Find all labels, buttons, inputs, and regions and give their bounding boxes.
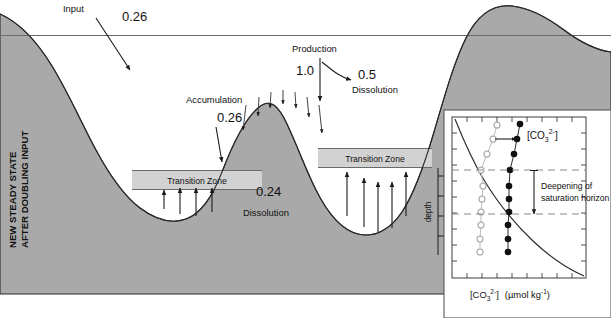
deep-dissolution-value: 0.24 — [256, 184, 281, 199]
side-caption-line-1: NEW STEADY STATE — [7, 151, 18, 248]
input-label: Input — [63, 3, 84, 14]
accumulation-label: Accumulation — [186, 94, 242, 105]
production-label: Production — [292, 43, 337, 54]
inset-panel: [CO32-] Deepening of saturation horizon … — [444, 110, 611, 318]
surface-dissolution-label: Dissolution — [352, 84, 398, 95]
production-value: 1.0 — [296, 63, 314, 78]
accumulation-value: 0.26 — [217, 110, 242, 125]
deepening-annotation-line-2: saturation horizon — [541, 193, 610, 203]
depth-axis-label: depth — [424, 201, 433, 222]
surface-dissolution-value: 0.5 — [358, 67, 376, 82]
transition-zone-right: Transition Zone — [318, 148, 432, 168]
side-caption-line-2: AFTER DOUBLING INPUT — [19, 131, 30, 248]
input-value: 0.26 — [122, 9, 147, 24]
transition-zone-right-label: Transition Zone — [345, 154, 405, 164]
deep-dissolution-label: Dissolution — [243, 207, 289, 218]
figure-canvas: Transition Zone Transition Zone Input 0.… — [0, 0, 611, 318]
ocean-cross-section-figure: Transition Zone Transition Zone Input 0.… — [0, 0, 611, 318]
transition-zone-left: Transition Zone — [132, 170, 262, 190]
inset-x-axis-label: [CO32-](µmol kg-1) — [470, 288, 550, 303]
deepening-annotation-line-1: Deepening of — [541, 181, 593, 191]
